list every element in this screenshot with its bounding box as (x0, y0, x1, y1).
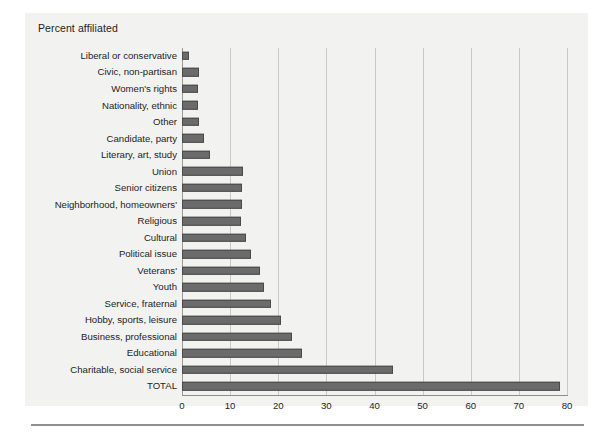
bar-track (182, 329, 588, 345)
bar (182, 167, 243, 176)
category-label: Charitable, social service (25, 365, 182, 375)
x-tick-label: 60 (465, 400, 476, 411)
category-label: Women's rights (25, 84, 182, 94)
bar-track (182, 378, 588, 394)
category-label: TOTAL (25, 381, 182, 391)
chart-row: Union (25, 164, 588, 180)
bar (182, 101, 198, 110)
category-label: Nationality, ethnic (25, 101, 182, 111)
bar (182, 332, 292, 341)
category-label: Neighborhood, homeowners' (25, 200, 182, 210)
bar (182, 200, 242, 209)
chart-row: Liberal or conservative (25, 48, 588, 64)
chart-row: Candidate, party (25, 131, 588, 147)
bar (182, 365, 393, 374)
bar (182, 85, 198, 94)
chart-row: Nationality, ethnic (25, 98, 588, 114)
bar-track (182, 147, 588, 163)
chart-row: Literary, art, study (25, 147, 588, 163)
bar-track (182, 180, 588, 196)
category-label: Service, fraternal (25, 299, 182, 309)
x-axis-line (182, 395, 568, 396)
bar-track (182, 362, 588, 378)
chart-row: Religious (25, 213, 588, 229)
chart-row: Educational (25, 345, 588, 361)
bar (182, 134, 204, 143)
chart-row: Political issue (25, 246, 588, 262)
category-label: Cultural (25, 233, 182, 243)
bar (182, 382, 560, 391)
chart-row: Other (25, 114, 588, 130)
category-label: Political issue (25, 249, 182, 259)
category-label: Civic, non-partisan (25, 67, 182, 77)
category-label: Senior citizens (25, 183, 182, 193)
category-label: Union (25, 167, 182, 177)
chart-row: Civic, non-partisan (25, 65, 588, 81)
chart-row: Youth (25, 279, 588, 295)
bar-track (182, 98, 588, 114)
category-label: Religious (25, 216, 182, 226)
chart-row: Women's rights (25, 81, 588, 97)
chart-title: Percent affiliated (38, 22, 118, 34)
bar-track (182, 213, 588, 229)
bar-track (182, 230, 588, 246)
bar (182, 118, 199, 127)
x-tick-label: 70 (514, 400, 525, 411)
bar (182, 184, 242, 193)
chart-figure-panel: Percent affiliated Liberal or conservati… (25, 13, 588, 406)
chart-row: Business, professional (25, 329, 588, 345)
bar-track (182, 114, 588, 130)
chart-row: Hobby, sports, leisure (25, 312, 588, 328)
bar (182, 52, 189, 61)
category-label: Literary, art, study (25, 150, 182, 160)
bar (182, 233, 246, 242)
bar-track (182, 345, 588, 361)
bar (182, 299, 271, 308)
bar-track (182, 131, 588, 147)
bar-track (182, 164, 588, 180)
x-tick-label: 0 (179, 400, 184, 411)
chart-row: TOTAL (25, 378, 588, 394)
bar (182, 151, 210, 160)
bar-track (182, 246, 588, 262)
chart-row: Service, fraternal (25, 296, 588, 312)
category-label: Veterans' (25, 266, 182, 276)
chart-row: Cultural (25, 230, 588, 246)
category-label: Business, professional (25, 332, 182, 342)
bar-track (182, 65, 588, 81)
chart-row: Senior citizens (25, 180, 588, 196)
bar-track (182, 279, 588, 295)
bar-track (182, 296, 588, 312)
bar-track (182, 197, 588, 213)
bar-track (182, 263, 588, 279)
x-tick-label: 50 (417, 400, 428, 411)
x-tick-label: 10 (225, 400, 236, 411)
category-label: Youth (25, 282, 182, 292)
bar (182, 283, 264, 292)
bar (182, 316, 281, 325)
page-bottom-rule (31, 424, 584, 426)
category-label: Liberal or conservative (25, 51, 182, 61)
bar (182, 217, 241, 226)
category-label: Candidate, party (25, 134, 182, 144)
bar-track (182, 312, 588, 328)
bar-track (182, 81, 588, 97)
chart-row: Veterans' (25, 263, 588, 279)
bar (182, 349, 302, 358)
bar (182, 68, 199, 77)
category-label: Hobby, sports, leisure (25, 315, 182, 325)
x-tick-label: 40 (369, 400, 380, 411)
x-tick-label: 30 (321, 400, 332, 411)
bar-track (182, 48, 588, 64)
category-label: Educational (25, 348, 182, 358)
category-label: Other (25, 117, 182, 127)
chart-row: Charitable, social service (25, 362, 588, 378)
bar (182, 266, 260, 275)
chart-row: Neighborhood, homeowners' (25, 197, 588, 213)
bar (182, 250, 251, 259)
x-tick-label: 80 (562, 400, 573, 411)
x-tick-label: 20 (273, 400, 284, 411)
